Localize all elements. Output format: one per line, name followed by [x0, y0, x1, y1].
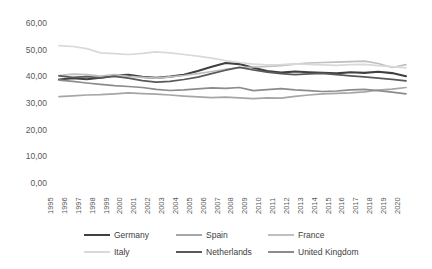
y-axis-tick-label: 30,00: [0, 98, 47, 108]
legend-item-netherlands: Netherlands: [176, 246, 268, 257]
legend-item-italy: Italy: [84, 246, 176, 257]
x-axis-tick-label: 2006: [200, 197, 208, 214]
legend-label: France: [298, 230, 324, 240]
x-axis-tick-label: 2017: [352, 197, 360, 214]
x-axis-tick-label: 1995: [47, 197, 55, 214]
legend-marker-icon: [268, 234, 294, 236]
chart-legend: GermanySpainFranceItalyNetherlandsUnited…: [84, 229, 408, 257]
y-axis-tick-label: 10,00: [0, 151, 47, 161]
y-axis-tick-label: 60,00: [0, 18, 47, 28]
x-axis-tick-label: 2008: [227, 197, 235, 214]
x-axis-tick-label: 2018: [366, 197, 374, 214]
legend-marker-icon: [176, 251, 202, 253]
line-chart-figure: 0,0010,0020,0030,0040,0050,0060,00 19951…: [0, 0, 432, 269]
legend-label: Spain: [206, 230, 228, 240]
x-axis-tick-label: 2004: [172, 197, 180, 214]
legend-label: Netherlands: [206, 247, 252, 257]
x-axis-tick-label: 2014: [311, 197, 319, 214]
legend-marker-icon: [84, 251, 110, 253]
legend-label: Italy: [114, 247, 130, 257]
x-axis-tick-label: 2012: [283, 197, 291, 214]
x-axis-tick-label: 2010: [255, 197, 263, 214]
legend-item-spain: Spain: [176, 229, 268, 240]
x-axis-tick-label: 2005: [186, 197, 194, 214]
x-axis-tick-label: 1996: [61, 197, 69, 214]
legend-marker-icon: [176, 234, 202, 236]
legend-item-germany: Germany: [84, 229, 176, 240]
x-axis-tick-label: 2001: [130, 197, 138, 214]
x-axis-tick-label: 2007: [214, 197, 222, 214]
x-axis-tick-label: 2013: [297, 197, 305, 214]
y-axis-tick-label: 20,00: [0, 125, 47, 135]
legend-item-france: France: [268, 229, 408, 240]
legend-marker-icon: [268, 251, 294, 253]
x-axis-tick-label: 2016: [338, 197, 346, 214]
x-axis-tick-label: 1999: [103, 197, 111, 214]
y-axis-tick-label: 0,00: [0, 178, 47, 188]
x-axis-tick-label: 2000: [116, 197, 124, 214]
x-axis-tick-label: 2015: [325, 197, 333, 214]
legend-label: United Kingdom: [298, 247, 358, 257]
x-axis-tick-label: 2011: [269, 198, 277, 214]
x-axis-tick-label: 1997: [75, 197, 83, 214]
x-axis-tick-label: 2020: [394, 197, 402, 214]
legend-item-united-kingdom: United Kingdom: [268, 246, 408, 257]
legend-label: Germany: [114, 230, 149, 240]
legend-marker-icon: [84, 234, 110, 236]
x-axis-tick-label: 2019: [380, 197, 388, 214]
x-axis-tick-label: 2003: [158, 197, 166, 214]
x-axis-tick-label: 2009: [241, 197, 249, 214]
x-axis-tick-label: 1998: [89, 197, 97, 214]
y-axis-tick-label: 40,00: [0, 71, 47, 81]
y-axis-tick-label: 50,00: [0, 45, 47, 55]
x-axis-tick-label: 2002: [144, 197, 152, 214]
